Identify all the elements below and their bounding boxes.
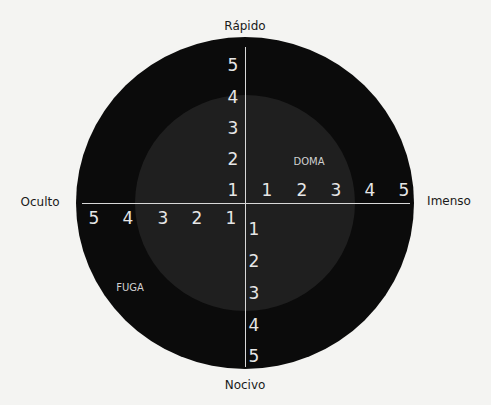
vertical-axis: [245, 47, 246, 367]
tick-up-3: 3: [228, 120, 239, 137]
tick-up-5: 5: [228, 57, 239, 74]
tick-left-5: 5: [89, 210, 100, 227]
tick-up-1: 1: [228, 182, 239, 199]
tick-left-4: 4: [123, 210, 134, 227]
tick-right-5: 5: [399, 182, 410, 199]
tick-down-1: 1: [249, 221, 260, 238]
tick-down-4: 4: [249, 317, 260, 334]
tick-left-2: 2: [192, 210, 203, 227]
axis-label-left: Oculto: [20, 196, 59, 208]
tick-right-3: 3: [331, 182, 342, 199]
tick-down-2: 2: [249, 253, 260, 270]
horizontal-axis: [82, 203, 410, 204]
tick-left-1: 1: [226, 210, 237, 227]
axis-label-right: Imenso: [427, 195, 471, 207]
tick-right-4: 4: [365, 182, 376, 199]
region-label-fuga: FUGA: [116, 283, 144, 293]
tick-up-4: 4: [228, 89, 239, 106]
tick-left-3: 3: [158, 210, 169, 227]
tick-right-2: 2: [297, 182, 308, 199]
region-label-doma: DOMA: [293, 157, 324, 167]
tick-right-1: 1: [262, 182, 273, 199]
axis-label-top: Rápido: [224, 20, 265, 32]
tick-up-2: 2: [228, 151, 239, 168]
tick-down-3: 3: [249, 285, 260, 302]
axis-label-bottom: Nocivo: [225, 379, 266, 391]
tick-down-5: 5: [249, 348, 260, 365]
